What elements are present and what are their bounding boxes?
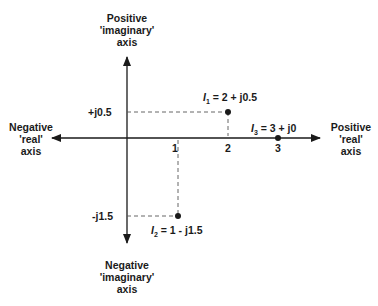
point-i2-label: I2 = 1 - j1.5 [151, 224, 202, 238]
negative-imaginary-axis-label: Negative 'imaginary' axis [96, 259, 158, 295]
argand-diagram: Positive 'imaginary' axis Negative 'imag… [0, 0, 378, 306]
point-i3-label: I3 = 3 + j0 [251, 122, 296, 136]
positive-real-axis-label: Positive 'real' axis [326, 121, 376, 157]
diagram-graphics [0, 0, 378, 306]
x-tick-1: 1 [172, 142, 178, 154]
y-tick-neg: -j1.5 [92, 210, 113, 222]
point-i2 [175, 213, 181, 219]
negative-real-axis-label: Negative 'real' axis [6, 121, 56, 157]
x-tick-2: 2 [225, 142, 231, 154]
point-i1 [225, 109, 231, 115]
point-i1-label: I1 = 2 + j0.5 [203, 91, 257, 105]
positive-imaginary-axis-label: Positive 'imaginary' axis [96, 12, 158, 48]
x-tick-3: 3 [275, 142, 281, 154]
y-tick-pos: +j0.5 [88, 106, 112, 118]
